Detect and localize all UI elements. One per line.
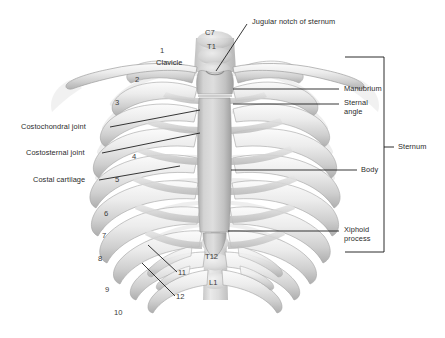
label-costosternal-joint: Costosternal joint [26,149,85,158]
thoracic-cage-illustration [0,0,445,338]
label-c7: C7 [205,28,215,37]
label-rib-2: 2 [135,75,139,84]
label-costal-cartilage: Costal cartilage [33,176,85,185]
label-rib-4: 4 [132,152,136,161]
label-body: Body [361,166,378,175]
label-rib-8: 8 [98,254,102,263]
label-rib-11: 11 [178,268,186,277]
sternum [197,70,234,258]
label-rib-1: 1 [160,46,164,55]
label-jugular-notch: Jugular notch of sternum [252,18,335,27]
label-sternum-bracket: Sternum [398,143,427,152]
label-rib-7: 7 [102,231,106,240]
label-t12: T12 [205,252,218,261]
sternum-body [198,98,232,232]
sternum-manubrium [197,70,234,94]
label-sternal-angle-line2: angle [344,108,362,117]
label-rib-9: 9 [105,285,109,294]
label-manubrium: Manubrium [344,85,382,94]
label-rib-3: 3 [115,98,119,107]
label-rib-12: 12 [176,292,184,301]
label-xiphoid-line2: process [344,235,370,244]
label-rib-10: 10 [114,308,122,317]
label-l1: L1 [209,278,217,287]
label-t1: T1 [207,42,216,51]
label-rib-5: 5 [115,175,119,184]
label-clavicle: Clavicle [156,59,183,68]
label-rib-6: 6 [104,209,108,218]
label-costochondral-joint: Costochondral joint [21,123,86,132]
